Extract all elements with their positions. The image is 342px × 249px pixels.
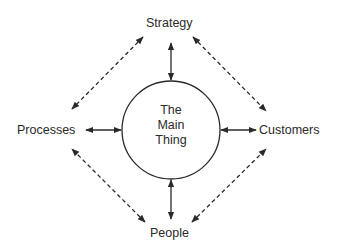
dashed-arrow-strategy-customers bbox=[193, 37, 266, 111]
dashed-arrow-people-customers bbox=[192, 149, 266, 222]
node-processes: Processes bbox=[17, 124, 75, 137]
main-thing-line-3: Thing bbox=[131, 133, 211, 148]
node-people: People bbox=[150, 227, 189, 240]
main-thing-line-2: Main bbox=[131, 118, 211, 133]
node-customers: Customers bbox=[259, 124, 319, 137]
main-thing-line-1: The bbox=[131, 103, 211, 118]
node-strategy: Strategy bbox=[146, 17, 193, 30]
dashed-arrow-strategy-processes bbox=[72, 37, 143, 109]
diagram-canvas: Strategy Processes Customers People The … bbox=[0, 0, 342, 249]
main-thing-label: The Main Thing bbox=[131, 103, 211, 148]
dashed-arrow-people-processes bbox=[72, 149, 145, 222]
